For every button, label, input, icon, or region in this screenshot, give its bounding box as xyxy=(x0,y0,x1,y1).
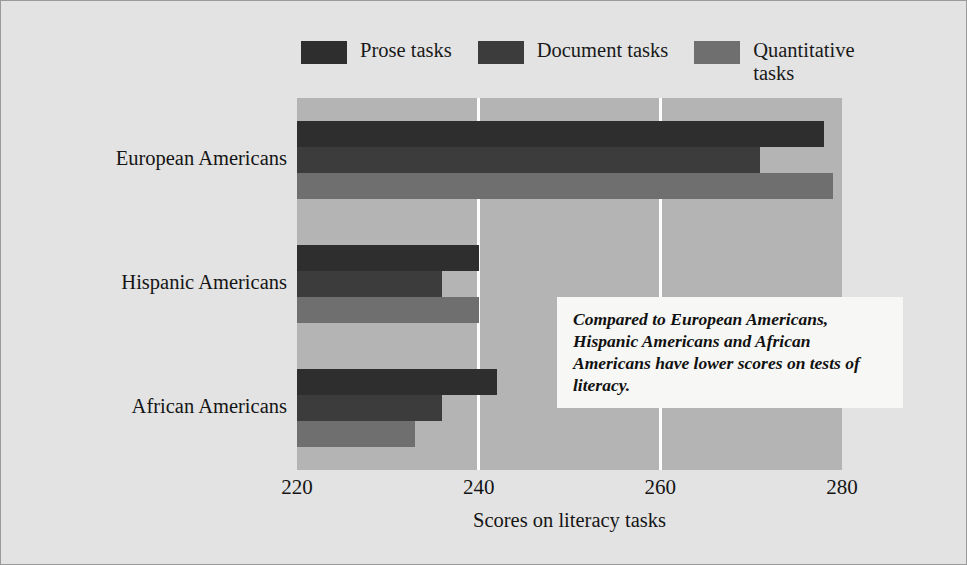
legend-entry: Quantitative tasks xyxy=(694,39,854,85)
legend-label: Prose tasks xyxy=(360,39,452,62)
bar xyxy=(297,297,479,323)
x-axis-tick-label: 280 xyxy=(826,475,858,500)
bar-group xyxy=(297,121,842,199)
legend-label: Quantitative tasks xyxy=(753,39,854,85)
legend-entry: Prose tasks xyxy=(301,39,452,64)
x-axis-tick-labels: 220240260280 xyxy=(297,475,842,505)
plot-area xyxy=(297,98,842,470)
legend-swatch-icon xyxy=(301,41,347,64)
bar xyxy=(297,245,479,271)
x-axis-tick-label: 240 xyxy=(463,475,495,500)
chart-figure: Prose tasksDocument tasksQuantitative ta… xyxy=(0,0,967,565)
y-axis-category-label: Hispanic Americans xyxy=(17,271,287,294)
x-axis-tick-label: 220 xyxy=(281,475,313,500)
y-axis-category-labels: European AmericansHispanic AmericansAfri… xyxy=(11,98,287,470)
annotation-callout: Compared to European Americans, Hispanic… xyxy=(557,297,903,408)
chart-legend: Prose tasksDocument tasksQuantitative ta… xyxy=(301,39,941,87)
legend-swatch-icon xyxy=(478,41,524,64)
x-axis-title: Scores on literacy tasks xyxy=(297,509,842,532)
x-axis-tick-label: 260 xyxy=(645,475,677,500)
bar xyxy=(297,147,760,173)
y-axis-category-label: European Americans xyxy=(17,147,287,170)
legend-entry: Document tasks xyxy=(478,39,669,64)
bar xyxy=(297,121,824,147)
y-axis-category-label: African Americans xyxy=(17,395,287,418)
legend-label: Document tasks xyxy=(537,39,669,62)
bar xyxy=(297,369,497,395)
legend-swatch-icon xyxy=(694,41,740,64)
bar xyxy=(297,173,833,199)
bar xyxy=(297,421,415,447)
bar xyxy=(297,271,442,297)
bar xyxy=(297,395,442,421)
